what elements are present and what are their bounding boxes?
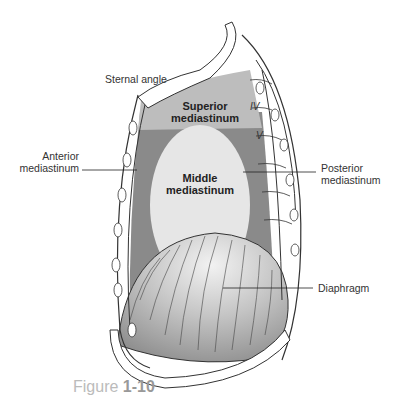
label-sternal-angle: Sternal angle bbox=[105, 73, 167, 85]
label-superior-mediastinum: Superior mediastinum bbox=[165, 100, 245, 124]
label-posterior-mediastinum: Posterior mediastinum bbox=[321, 162, 381, 186]
label-anterior-mediastinum: Anterior mediastinum bbox=[14, 150, 79, 174]
label-anterior-line2: mediastinum bbox=[14, 162, 79, 174]
label-vertebra-iv: IV bbox=[250, 101, 259, 112]
label-posterior-line2: mediastinum bbox=[321, 174, 381, 186]
label-middle-line2: mediastinum bbox=[160, 184, 240, 196]
label-superior-line1: Superior bbox=[165, 100, 245, 112]
label-middle-line1: Middle bbox=[160, 172, 240, 184]
figure-caption: Figure 1-10 bbox=[73, 378, 155, 396]
caption-prefix: Figure bbox=[73, 378, 118, 395]
caption-number: 1-10 bbox=[123, 378, 155, 395]
label-superior-line2: mediastinum bbox=[165, 112, 245, 124]
label-vertebra-v: V bbox=[256, 130, 263, 141]
label-anterior-line1: Anterior bbox=[14, 150, 79, 162]
label-middle-mediastinum: Middle mediastinum bbox=[160, 172, 240, 196]
label-posterior-line1: Posterior bbox=[321, 162, 381, 174]
label-diaphragm: Diaphragm bbox=[318, 282, 369, 294]
